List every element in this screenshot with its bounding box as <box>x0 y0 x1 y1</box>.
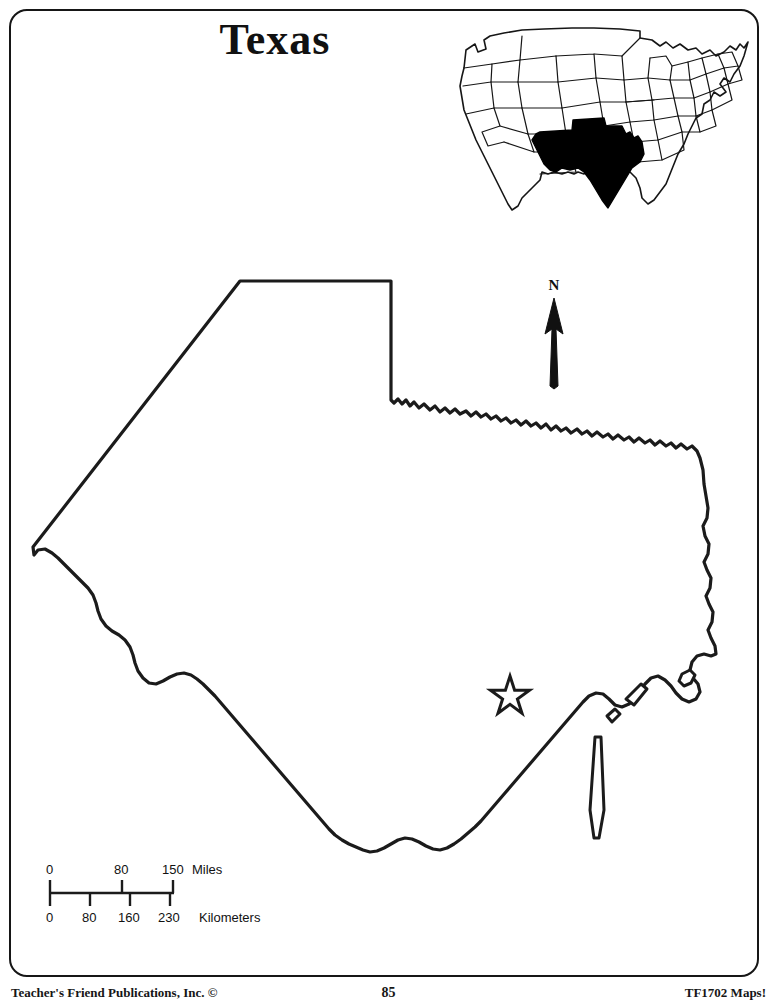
padre-island <box>590 737 604 838</box>
scale-miles-tick-1: 80 <box>114 862 128 877</box>
scale-km-tick-3: 230 <box>158 910 180 925</box>
scale-km-tick-0: 0 <box>46 910 53 925</box>
scale-km-tick-2: 160 <box>118 910 140 925</box>
united-states-inset-map <box>444 22 762 222</box>
footer-page-number: 85 <box>0 985 777 1001</box>
page-title: Texas <box>140 14 410 65</box>
scale-km-unit: Kilometers <box>199 910 260 925</box>
map-page: Texas <box>0 0 777 1005</box>
scale-miles-tick-2: 150 <box>162 862 184 877</box>
page-footer: Teacher's Friend Publications, Inc. © 85… <box>0 985 777 1005</box>
texas-state-map <box>14 250 766 940</box>
texas-border <box>33 281 716 852</box>
scale-miles-unit: Miles <box>192 862 222 877</box>
texas-boundary-group <box>33 281 716 852</box>
scale-miles-tick-0: 0 <box>46 862 53 877</box>
footer-product-code: TF1702 Maps! <box>685 985 766 1001</box>
mustang-island <box>607 709 620 722</box>
scale-bar: 0 80 150 Miles 0 80 160 230 Kilometers <box>34 862 304 930</box>
scale-km-tick-1: 80 <box>82 910 96 925</box>
